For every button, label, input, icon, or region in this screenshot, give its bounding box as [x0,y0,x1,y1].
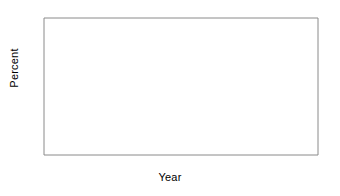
plot-area [0,0,340,196]
line-chart: Percent Year [0,0,340,196]
